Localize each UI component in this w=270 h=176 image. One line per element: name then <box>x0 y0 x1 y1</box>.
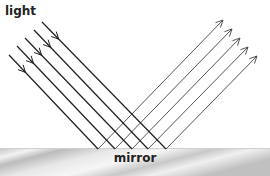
incident-ray <box>9 55 98 149</box>
reflected-ray <box>148 47 248 149</box>
reflected-ray <box>115 29 232 149</box>
reflected-ray <box>166 56 257 149</box>
reflected-ray <box>132 38 240 149</box>
incident-ray <box>17 46 115 149</box>
reflected-ray <box>98 20 223 149</box>
reflection-diagram <box>0 0 270 176</box>
light-label: light <box>5 4 36 18</box>
incident-ray <box>42 22 166 149</box>
mirror-label: mirror <box>0 151 270 165</box>
light-rays <box>9 20 257 149</box>
